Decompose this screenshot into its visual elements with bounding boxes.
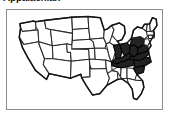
figure-caption: Appalachian	[3, 0, 123, 3]
map-frame	[6, 9, 163, 110]
state-minnesota[interactable]	[88, 16, 104, 39]
state-alabama[interactable]	[121, 68, 127, 79]
us-map-svg	[7, 10, 162, 109]
state-south-dakota[interactable]	[72, 28, 90, 40]
state-oklahoma[interactable]	[89, 59, 106, 69]
state-florida[interactable]	[127, 78, 144, 99]
state-north-dakota[interactable]	[72, 16, 89, 29]
figure-container: Appalachian	[0, 0, 171, 115]
state-new-mexico[interactable]	[71, 59, 90, 78]
